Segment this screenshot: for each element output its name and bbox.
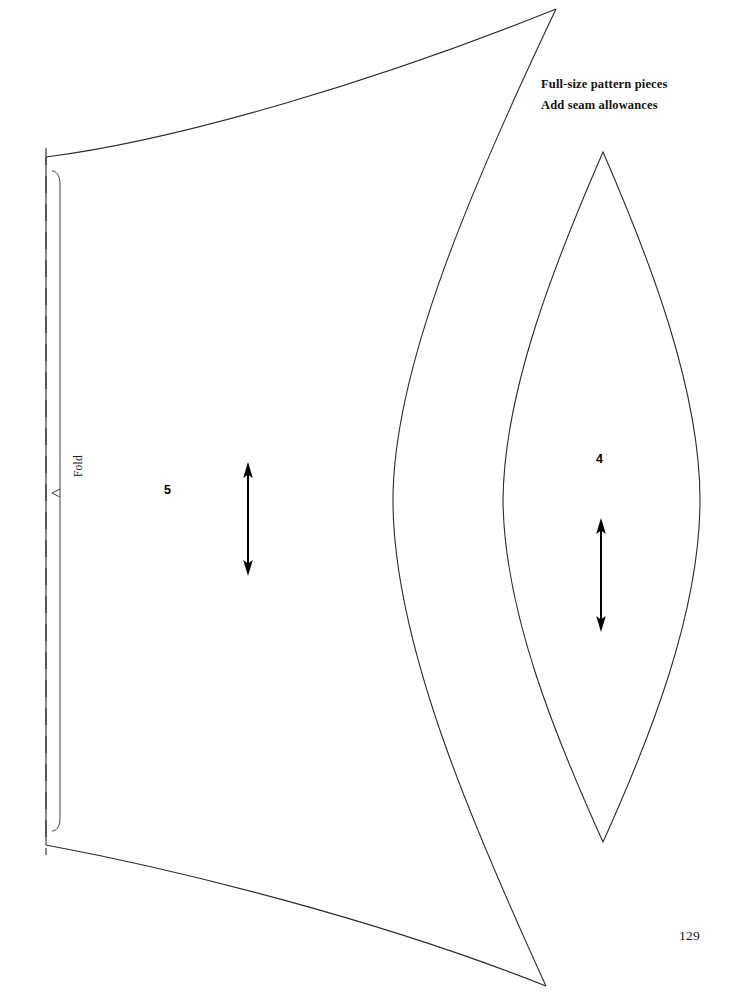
piece-number-label-4: 4	[596, 452, 603, 466]
piece-5-outline	[46, 9, 556, 986]
grainline-arrow-piece-5	[243, 462, 253, 576]
piece-5-seam-path	[52, 171, 60, 831]
piece-5-seam-line	[52, 171, 60, 831]
piece-5-top-edge	[46, 9, 556, 157]
piece-5-right-edge	[393, 9, 556, 986]
instruction-note-line-2: Add seam allowances	[541, 95, 731, 116]
piece-5-bottom-edge	[46, 845, 546, 986]
piece-number-label-5: 5	[164, 483, 171, 497]
grainline-arrow-piece-4	[596, 518, 606, 632]
fold-tick-icon	[52, 489, 60, 497]
fold-label: Fold	[72, 455, 84, 477]
pattern-drawing	[0, 0, 740, 1005]
instruction-note-line-1: Full-size pattern pieces	[541, 74, 731, 95]
piece-4-path	[503, 152, 700, 842]
piece-4-outline	[503, 152, 700, 842]
page-number: 129	[679, 928, 700, 944]
pattern-sheet: Full-size pattern pieces Add seam allowa…	[0, 0, 740, 1005]
instruction-note: Full-size pattern pieces Add seam allowa…	[541, 74, 731, 116]
